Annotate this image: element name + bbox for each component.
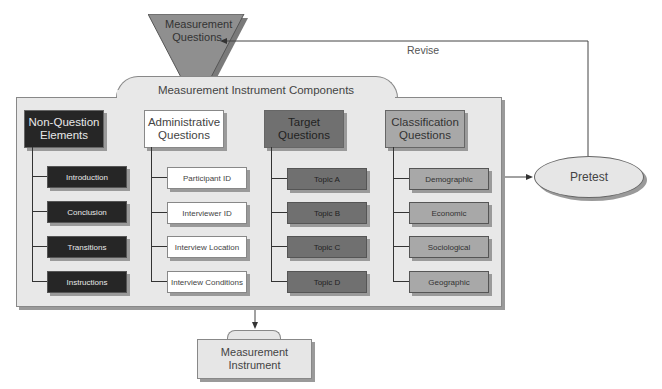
item-introduction: Introduction: [47, 166, 127, 188]
administrative-questions-head: AdministrativeQuestions: [144, 110, 224, 148]
measurement-instrument-node: MeasurementInstrument: [197, 339, 312, 379]
item-interview-conditions: Interview Conditions: [167, 271, 247, 293]
item-economic: Economic: [409, 202, 489, 224]
item-interview-location: Interview Location: [167, 236, 247, 258]
item-interviewer-id: Interviewer ID: [167, 202, 247, 224]
item-topic-d: Topic D: [287, 271, 367, 293]
item-transitions: Transitions: [47, 236, 127, 258]
target-questions-head: TargetQuestions: [264, 110, 344, 148]
item-conclusion: Conclusion: [47, 201, 127, 223]
classification-questions-head: ClassificationQuestions: [385, 110, 465, 148]
non-question-elements-head: Non-QuestionElements: [24, 110, 104, 148]
container-label: Measurement Instrument Components: [116, 84, 396, 96]
item-demographic: Demographic: [409, 168, 489, 190]
label-line: Classification: [391, 116, 459, 129]
label-line: Questions: [391, 129, 459, 142]
item-geographic: Geographic: [409, 271, 489, 293]
item-sociological: Sociological: [409, 236, 489, 258]
pretest-node: Pretest: [534, 156, 644, 198]
item-participant-id: Participant ID: [167, 167, 247, 189]
revise-label: Revise: [407, 44, 439, 56]
label-line: Questions: [148, 129, 220, 142]
item-instructions: Instructions: [47, 271, 127, 293]
label-line: Non-Question: [29, 116, 100, 129]
label-line: Instrument: [221, 359, 288, 372]
label-line: Target: [278, 116, 330, 129]
item-topic-c: Topic C: [287, 236, 367, 258]
item-topic-a: Topic A: [287, 168, 367, 190]
label-line: Administrative: [148, 116, 220, 129]
label-line: Measurement: [221, 346, 288, 359]
label-line: Questions: [278, 129, 330, 142]
label-line: Elements: [29, 129, 100, 142]
item-topic-b: Topic B: [287, 202, 367, 224]
